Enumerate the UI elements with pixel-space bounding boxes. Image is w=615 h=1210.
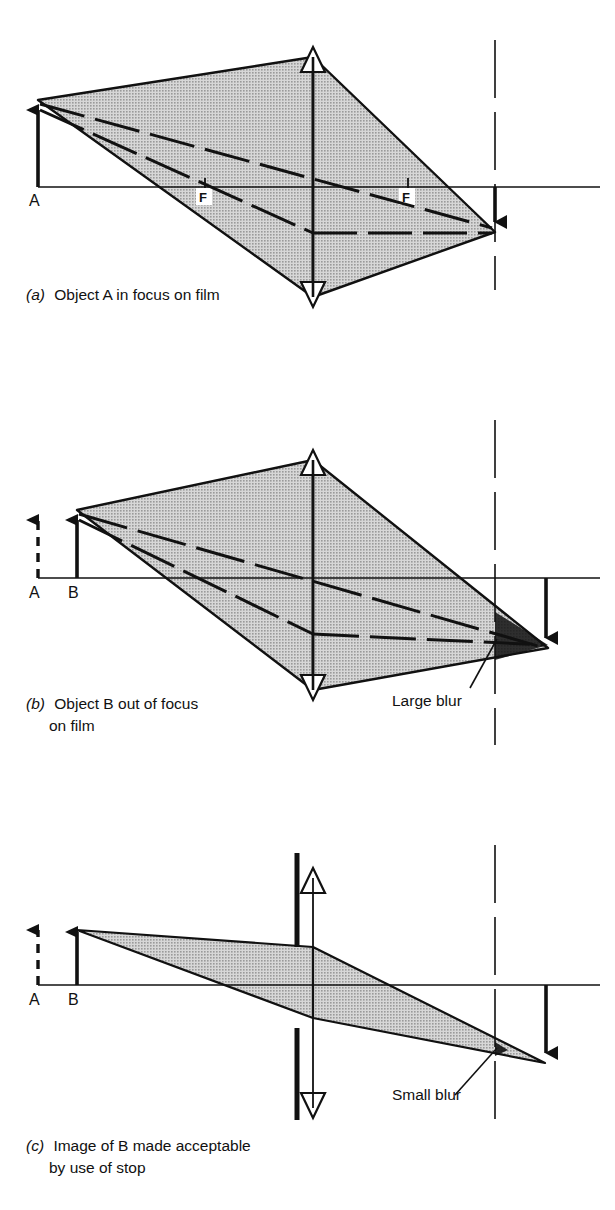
panel-b-caption-letter: (b) [26,695,45,712]
object-label-a-b: A [29,584,40,601]
panel-a-caption: (a) Object A in focus on film [26,286,220,303]
object-label-a: A [29,192,40,209]
object-label-a-c: A [29,991,40,1008]
panel-c-caption-line1: (c) Image of B made acceptable [26,1137,251,1154]
object-label-b-b: B [68,584,79,601]
panel-c-caption-text-1: Image of B made acceptable [53,1137,250,1154]
panel-a-caption-text: Object A in focus on film [54,286,219,303]
panel-b-caption-text-1: Object B out of focus [54,695,198,712]
panel-a-caption-letter: (a) [26,286,45,303]
depth-of-field-diagram: F F A (a) Object A in focus on film [0,0,615,1210]
focal-label-left-a: F [199,190,207,205]
object-label-b-c: B [68,991,79,1008]
large-blur-label: Large blur [392,692,462,709]
small-blur-label: Small blur [392,1086,461,1103]
panel-b-caption-line2: on film [49,717,95,734]
panel-c-caption-line2: by use of stop [49,1159,146,1176]
panel-c-caption-letter: (c) [26,1137,44,1154]
